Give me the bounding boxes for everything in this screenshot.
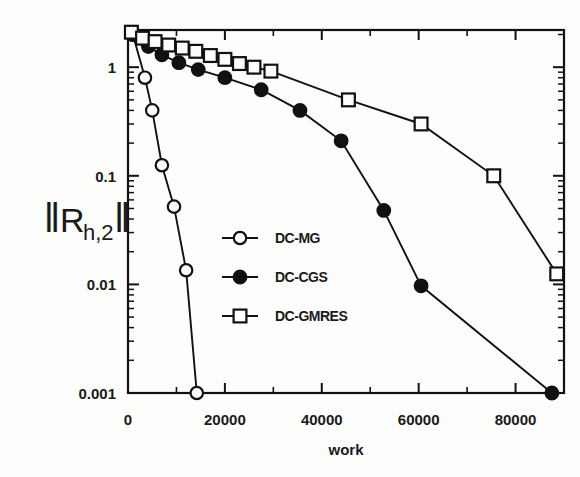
data-point-dc-gmres bbox=[550, 267, 563, 280]
convergence-plot: 020000400006000080000work10.10.010.001‖R… bbox=[0, 0, 580, 477]
data-point-dc-gmres bbox=[487, 169, 500, 182]
data-point-dc-gmres bbox=[265, 65, 278, 78]
data-point-dc-mg bbox=[146, 104, 158, 116]
data-point-dc-gmres bbox=[233, 57, 246, 70]
y-tick-label: 0.01 bbox=[87, 276, 116, 293]
legend-marker-dc-cgs bbox=[234, 271, 247, 284]
svg-text:R: R bbox=[60, 201, 85, 239]
x-tick-label: 40000 bbox=[301, 411, 343, 428]
data-point-dc-cgs bbox=[294, 104, 307, 117]
x-axis-title: work bbox=[327, 441, 364, 458]
data-point-dc-cgs bbox=[415, 279, 428, 292]
data-point-dc-mg bbox=[139, 72, 151, 84]
data-point-dc-cgs bbox=[255, 83, 268, 96]
y-tick-label: 0.001 bbox=[78, 385, 116, 402]
chart-figure: 020000400006000080000work10.10.010.001‖R… bbox=[0, 0, 580, 477]
data-point-dc-cgs bbox=[192, 63, 205, 76]
data-point-dc-mg bbox=[180, 264, 192, 276]
data-point-dc-gmres bbox=[189, 45, 202, 58]
x-tick-label: 60000 bbox=[398, 411, 440, 428]
legend-marker-dc-gmres bbox=[234, 310, 247, 323]
legend-label-dc-cgs: DC-CGS bbox=[275, 269, 327, 285]
y-tick-label: 0.1 bbox=[95, 168, 116, 185]
data-point-dc-cgs bbox=[545, 387, 558, 400]
data-point-dc-cgs bbox=[335, 134, 348, 147]
data-point-dc-gmres bbox=[218, 53, 231, 66]
data-point-dc-gmres bbox=[248, 61, 261, 74]
x-tick-label: 0 bbox=[124, 411, 132, 428]
data-point-dc-gmres bbox=[342, 93, 355, 106]
data-point-dc-gmres bbox=[149, 35, 162, 48]
data-point-dc-gmres bbox=[204, 49, 217, 62]
data-point-dc-gmres bbox=[176, 42, 189, 55]
legend-label-dc-mg: DC-MG bbox=[275, 230, 321, 246]
y-axis-title: ‖Rh,2‖ bbox=[44, 196, 131, 245]
data-point-dc-mg bbox=[168, 200, 180, 212]
plot-frame bbox=[128, 30, 564, 393]
series-line-dc-cgs bbox=[133, 34, 552, 393]
legend-label-dc-gmres: DC-GMRES bbox=[275, 308, 347, 324]
data-point-dc-gmres bbox=[162, 39, 175, 52]
legend-marker-dc-mg bbox=[234, 232, 246, 244]
svg-text:‖: ‖ bbox=[114, 196, 131, 240]
data-point-dc-mg bbox=[191, 387, 203, 399]
series-line-dc-mg bbox=[133, 34, 197, 393]
data-point-dc-gmres bbox=[136, 32, 149, 45]
x-tick-label: 20000 bbox=[204, 411, 246, 428]
x-tick-label: 80000 bbox=[495, 411, 537, 428]
svg-text:h,2: h,2 bbox=[83, 220, 114, 245]
data-point-dc-cgs bbox=[377, 204, 390, 217]
data-point-dc-mg bbox=[156, 159, 168, 171]
data-point-dc-cgs bbox=[218, 71, 231, 84]
y-tick-label: 1 bbox=[108, 59, 116, 76]
data-point-dc-gmres bbox=[415, 118, 428, 131]
svg-text:‖: ‖ bbox=[44, 196, 61, 240]
data-point-dc-cgs bbox=[172, 56, 185, 69]
